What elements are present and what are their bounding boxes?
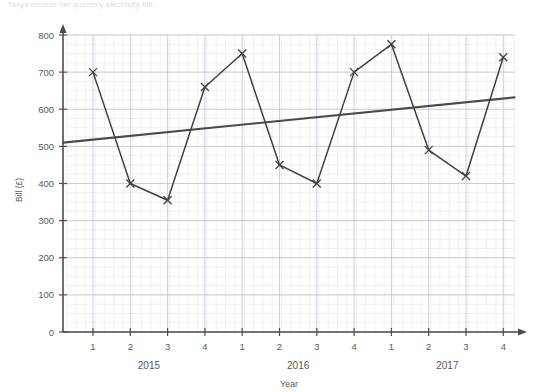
x-tick-label: 4 [501, 341, 506, 352]
x-tick-label: 1 [90, 341, 95, 352]
x-group-label: 2016 [287, 360, 310, 371]
y-tick-label: 0 [49, 327, 54, 338]
y-tick-label: 100 [38, 289, 54, 300]
y-tick-label: 400 [38, 178, 54, 189]
x-tick-label: 3 [314, 341, 319, 352]
x-group-label: 2015 [138, 360, 161, 371]
faint-page-header: Tanya records her quarterly electricity … [8, 1, 155, 8]
x-group-label: 2017 [436, 360, 459, 371]
x-tick-label: 2 [277, 341, 282, 352]
y-tick-label: 700 [38, 67, 54, 78]
x-tick-label: 2 [426, 341, 431, 352]
data-point-markers [89, 40, 507, 204]
line-chart: 0100200300400500600700800 12341234123420… [0, 0, 536, 392]
x-tick-label: 1 [240, 341, 245, 352]
x-tick-label: 4 [202, 341, 207, 352]
x-tick-label: 3 [463, 341, 468, 352]
data-series-line [93, 44, 503, 200]
x-tick-label: 1 [389, 341, 394, 352]
chart-container: Tanya records her quarterly electricity … [0, 0, 536, 392]
x-tick-label: 4 [351, 341, 356, 352]
y-tick-label: 600 [38, 104, 54, 115]
x-axis-title: Year [280, 379, 298, 389]
y-axis-title: Bill (£) [14, 178, 24, 202]
axis-labels: Bill (£)Year [14, 178, 298, 389]
y-tick-label: 500 [38, 141, 54, 152]
y-tick-label: 300 [38, 215, 54, 226]
x-tick-label: 3 [165, 341, 170, 352]
x-axis-ticks: 123412341234201520162017 [90, 328, 506, 371]
y-tick-label: 200 [38, 252, 54, 263]
x-tick-label: 2 [128, 341, 133, 352]
trend-line [63, 97, 514, 142]
y-tick-label: 800 [38, 30, 54, 41]
